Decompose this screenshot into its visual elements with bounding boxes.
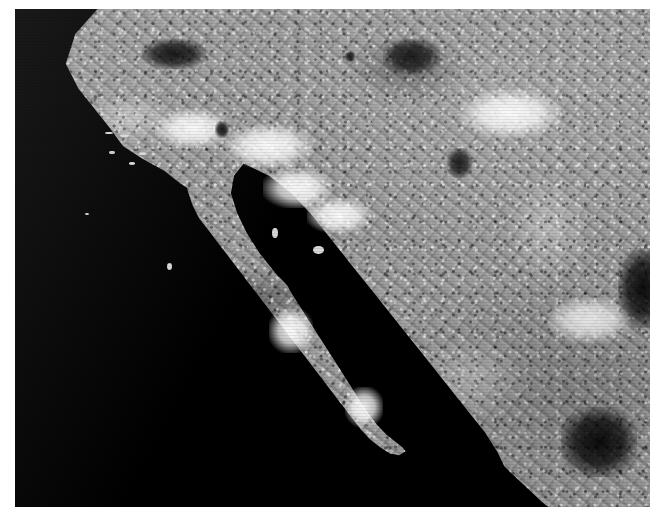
page-root	[0, 0, 664, 523]
satellite-image	[15, 9, 650, 507]
